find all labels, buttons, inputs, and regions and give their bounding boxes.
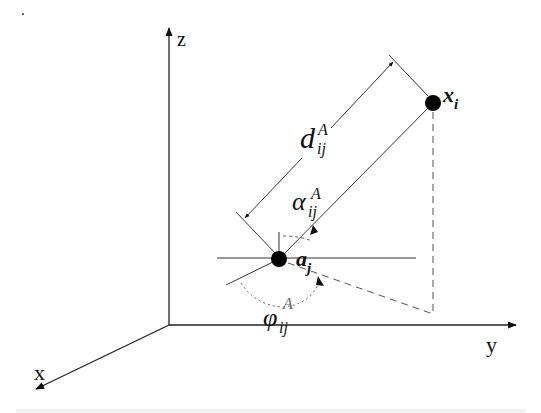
phi-subscript: ij [279,319,288,337]
y-axis-label: y [486,332,497,357]
phi-angle-arc [241,282,319,307]
z-axis-label: z [177,28,186,50]
x-axis-label: x [34,360,45,385]
dimension-tick-target [389,55,428,96]
phi-label: φ [263,303,277,332]
alpha-superscript: A [310,185,321,202]
alpha-subscript: ij [308,203,317,221]
x-axis [36,325,169,389]
alpha-label: α [292,187,307,216]
phi-superscript: A [282,295,293,312]
dimension-tick-anchor [236,212,276,254]
distance-subscript: ij [317,140,326,158]
distance-label: d [300,121,316,154]
anchor-point [271,251,287,267]
distance-superscript: A [317,121,328,138]
anchor-label: aj [296,246,312,276]
coordinate-diagram: z y x aj xi d A ij α A ij φ A ij [0,0,541,413]
phi-arrowhead [316,276,324,286]
local-oblique-line [226,259,279,285]
target-label: xi [442,82,459,112]
speck-dot [22,13,24,15]
target-point [425,95,441,111]
dimension-line-upper [331,62,393,128]
caption-fragment [16,409,526,413]
